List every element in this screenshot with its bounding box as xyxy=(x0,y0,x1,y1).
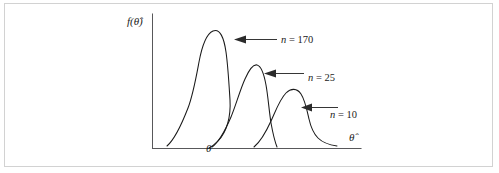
x-axis-label: θ̂ xyxy=(349,131,359,143)
y-axis-label: f(θ̂) xyxy=(127,15,144,28)
distribution-plot: n = 170 n = 25 n = 10 f(θ̂) θ̂ θ xyxy=(0,0,499,173)
density-curve-n25 xyxy=(212,65,277,147)
density-curve-n170 xyxy=(167,30,230,148)
annotation-label-n170: n = 170 xyxy=(281,34,313,45)
callout-n10: n = 10 xyxy=(301,104,357,121)
callout-n25: n = 25 xyxy=(264,70,335,84)
density-curve-n10 xyxy=(254,89,337,147)
callout-arrowhead-n170 xyxy=(234,36,246,44)
callout-n170: n = 170 xyxy=(234,34,313,45)
annotation-label-n10: n = 10 xyxy=(330,109,357,120)
origin-theta-mark: θ xyxy=(206,142,212,154)
callout-arrowhead-n25 xyxy=(264,70,276,78)
figure-container: n = 170 n = 25 n = 10 f(θ̂) θ̂ θ xyxy=(0,0,499,173)
annotation-label-n25: n = 25 xyxy=(308,72,335,83)
